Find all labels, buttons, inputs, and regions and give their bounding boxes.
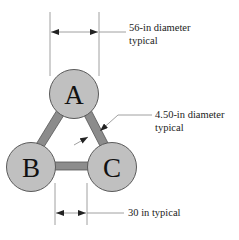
strut-dimension-line2: typical <box>155 121 224 134</box>
top-dimension-label: 56-in diameter typical <box>129 21 191 47</box>
leader-arrow-upper <box>100 115 118 131</box>
top-dimension-line1: 56-in diameter <box>129 21 191 34</box>
node-b: B <box>7 143 56 192</box>
node-a: A <box>50 70 99 119</box>
strut-dimension <box>74 115 152 145</box>
node-label-a: A <box>64 80 84 110</box>
node-label-c: C <box>103 153 121 183</box>
strut-dimension-label: 4.50-in diameter typical <box>155 108 224 134</box>
strut-dimension-line1: 4.50-in diameter <box>155 108 224 121</box>
bottom-dimension-label: 30 in typical <box>128 206 181 219</box>
strut-b-c <box>54 162 89 170</box>
node-c: C <box>88 143 137 192</box>
bottom-dimension-line1: 30 in typical <box>128 206 181 219</box>
leader-arrow-lower <box>74 137 88 145</box>
top-dimension <box>50 12 126 76</box>
strut-a-c <box>84 110 108 148</box>
top-dimension-line2: typical <box>129 34 191 47</box>
node-label-b: B <box>22 153 40 183</box>
